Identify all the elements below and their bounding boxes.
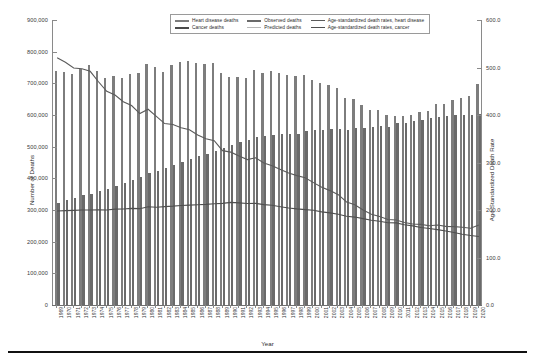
x-axis-tick-label: 2018	[463, 307, 469, 318]
x-axis-tick-label: 1987	[207, 307, 213, 318]
x-axis-tick-label: 1988	[215, 307, 221, 318]
x-axis-tick-label: 2014	[430, 307, 436, 318]
x-axis-tick-mark	[437, 305, 438, 308]
y-axis-left-tick: 100,000	[27, 270, 53, 276]
x-axis-tick-label: 1986	[199, 307, 205, 318]
y-axis-right-tick: 400.0	[481, 112, 501, 118]
x-axis-title: Year	[0, 340, 535, 347]
x-axis-tick-mark	[197, 305, 198, 308]
legend-item: Cancer deaths	[175, 25, 238, 30]
x-axis-tick-mark	[420, 305, 421, 308]
x-axis-tick-mark	[97, 305, 98, 308]
x-axis-tick-label: 2004	[348, 307, 354, 318]
x-axis-tick-mark	[304, 305, 305, 308]
x-axis-tick-label: 1981	[157, 307, 163, 318]
legend-item: Observed deaths	[247, 18, 301, 23]
y-axis-left-tick: 200,000	[27, 239, 53, 245]
legend-label: Observed deaths	[264, 18, 301, 23]
legend-item: Predicted deaths	[247, 25, 301, 30]
y-axis-right-tick: 600.0	[481, 17, 501, 23]
legend-label: Age-standardized death rates, heart dise…	[328, 18, 425, 23]
x-axis-tick-mark	[56, 305, 57, 308]
x-axis-tick-label: 1983	[174, 307, 180, 318]
x-axis-tick-label: 1997	[290, 307, 296, 318]
x-axis-tick-label: 1992	[248, 307, 254, 318]
x-axis-tick-mark	[321, 305, 322, 308]
x-axis-tick-label: 1990	[232, 307, 238, 318]
x-axis-tick-mark	[89, 305, 90, 308]
legend-swatch-icon	[311, 20, 325, 21]
x-axis-tick-mark	[263, 305, 264, 308]
x-axis-tick-label: 2016	[447, 307, 453, 318]
y-axis-left-tick: 600,000	[27, 112, 53, 118]
legend-label: Predicted deaths	[264, 25, 301, 30]
x-axis-tick-label: 2015	[439, 307, 445, 318]
x-axis-tick-label: 1974	[99, 307, 105, 318]
rate-lines-layer	[53, 20, 481, 305]
rate-line	[57, 202, 479, 236]
x-axis-tick-label: 1969	[58, 307, 64, 318]
rate-line	[57, 58, 479, 228]
x-axis-tick-label: 1996	[281, 307, 287, 318]
x-axis-tick-label: 1991	[240, 307, 246, 318]
legend-swatch-icon	[247, 27, 261, 28]
x-axis-tick-mark	[213, 305, 214, 308]
x-axis-tick-mark	[288, 305, 289, 308]
y-axis-left-tick: 800,000	[27, 49, 53, 55]
x-axis-tick-mark	[155, 305, 156, 308]
x-axis-tick-label: 1998	[298, 307, 304, 318]
x-axis-tick-label: 2000	[314, 307, 320, 318]
x-axis-tick-label: 2020	[480, 307, 486, 318]
x-axis-tick-label: 1971	[75, 307, 81, 318]
x-axis-tick-label: 1972	[83, 307, 89, 318]
y-axis-left-tick: 500,000	[27, 144, 53, 150]
x-axis-tick-label: 1976	[116, 307, 122, 318]
x-axis-tick-mark	[296, 305, 297, 308]
x-axis-tick-label: 1995	[273, 307, 279, 318]
plot-area	[53, 20, 481, 305]
x-axis-tick-label: 2013	[422, 307, 428, 318]
x-axis-tick-mark	[461, 305, 462, 308]
x-axis-tick-label: 1985	[190, 307, 196, 318]
x-axis-tick-mark	[246, 305, 247, 308]
x-axis-tick-label: 2001	[323, 307, 329, 318]
x-axis-tick-mark	[346, 305, 347, 308]
legend-item: Age-standardized death rates, heart dise…	[311, 18, 425, 23]
x-axis-tick-mark	[379, 305, 380, 308]
x-axis-tick-label: 1999	[306, 307, 312, 318]
x-axis-tick-label: 2002	[331, 307, 337, 318]
x-axis-tick-mark	[370, 305, 371, 308]
x-axis-tick-label: 2010	[397, 307, 403, 318]
x-axis-tick-mark	[131, 305, 132, 308]
x-axis-tick-mark	[73, 305, 74, 308]
x-axis-tick-label: 2012	[414, 307, 420, 318]
legend-item: Heart disease deaths	[175, 18, 238, 23]
x-axis-tick-mark	[354, 305, 355, 308]
x-axis-tick-mark	[230, 305, 231, 308]
x-axis-tick-mark	[188, 305, 189, 308]
x-axis-line	[52, 305, 482, 306]
x-axis-tick-label: 1993	[257, 307, 263, 318]
legend-swatch-icon	[175, 20, 189, 22]
x-axis-tick-label: 1978	[133, 307, 139, 318]
x-axis-tick-mark	[122, 305, 123, 308]
y-axis-left-tick: 900,000	[27, 17, 53, 23]
legend-item: Age-standardized death rates, cancer	[311, 25, 425, 30]
x-axis-tick-label: 1977	[124, 307, 130, 318]
y-axis-left-tick: 700,000	[27, 80, 53, 86]
legend-label: Cancer deaths	[192, 25, 224, 30]
x-axis-tick-mark	[412, 305, 413, 308]
x-axis-tick-mark	[470, 305, 471, 308]
x-axis-tick-label: 2003	[339, 307, 345, 318]
x-axis-tick-label: 1973	[91, 307, 97, 318]
x-axis-tick-label: 2009	[389, 307, 395, 318]
y-axis-right-tick: 100.0	[481, 255, 501, 261]
x-axis-tick-label: 1975	[108, 307, 114, 318]
x-axis-tick-label: 2008	[381, 307, 387, 318]
legend-swatch-icon	[311, 27, 325, 28]
x-axis-tick-mark	[222, 305, 223, 308]
x-axis-tick-mark	[139, 305, 140, 308]
x-axis-tick-mark	[312, 305, 313, 308]
chart-figure: Number of Deaths Age-Standardized Death …	[0, 0, 535, 359]
x-axis-tick-mark	[329, 305, 330, 308]
